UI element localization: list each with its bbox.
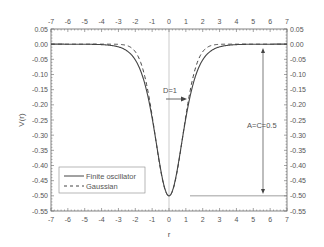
arrow-up-icon xyxy=(261,48,265,53)
y-tick-label-right: -0.50 xyxy=(290,192,306,199)
x-axis-label: r xyxy=(168,230,171,239)
y-tick-label-right: -0.10 xyxy=(290,71,306,78)
x-tick-label-top: 5 xyxy=(251,18,255,25)
y-tick-label-left: -0.40 xyxy=(32,162,48,169)
legend-label: Gaussian xyxy=(86,182,118,191)
y-tick-label-right: 0.05 xyxy=(290,26,304,33)
annotations: D=1A=C=0.5 xyxy=(163,48,287,196)
x-tick-label-top: -1 xyxy=(149,18,155,25)
x-tick-label-bottom: -1 xyxy=(149,216,155,223)
x-tick-label-top: -3 xyxy=(115,18,121,25)
y-tick-label-left: -0.45 xyxy=(32,177,48,184)
x-tick-label-top: -2 xyxy=(132,18,138,25)
x-tick-label-top: 2 xyxy=(201,18,205,25)
y-tick-label-right: -0.55 xyxy=(290,208,306,215)
y-tick-label-left: -0.05 xyxy=(32,56,48,63)
y-tick-label-right: 0.00 xyxy=(290,41,304,48)
x-tick-label-bottom: -6 xyxy=(65,216,71,223)
y-tick-label-left: -0.20 xyxy=(32,101,48,108)
x-tick-label-top: 1 xyxy=(184,18,188,25)
y-tick-label-right: -0.45 xyxy=(290,177,306,184)
x-tick-label-top: 6 xyxy=(268,18,272,25)
x-tick-label-bottom: -7 xyxy=(48,216,54,223)
x-tick-label-top: 3 xyxy=(218,18,222,25)
chart-svg: -7-7-6-6-5-5-4-4-3-3-2-2-1-1001122334455… xyxy=(0,0,324,247)
y-tick-label-right: -0.20 xyxy=(290,101,306,108)
legend-label: Finite oscillator xyxy=(86,172,137,181)
y-tick-label-left: -0.30 xyxy=(32,132,48,139)
y-tick-label-right: -0.35 xyxy=(290,147,306,154)
x-tick-label-bottom: 6 xyxy=(268,216,272,223)
x-tick-label-bottom: 2 xyxy=(201,216,205,223)
y-tick-label-left: -0.35 xyxy=(32,147,48,154)
x-tick-label-bottom: -4 xyxy=(98,216,104,223)
x-tick-label-bottom: 4 xyxy=(234,216,238,223)
x-tick-label-top: -4 xyxy=(98,18,104,25)
x-tick-label-top: -7 xyxy=(48,18,54,25)
x-tick-label-bottom: 0 xyxy=(167,216,171,223)
ac-label: A=C=0.5 xyxy=(247,121,277,130)
x-tick-label-bottom: -5 xyxy=(82,216,88,223)
y-tick-label-left: -0.15 xyxy=(32,86,48,93)
y-tick-label-left: 0.00 xyxy=(34,41,48,48)
y-tick-label-right: -0.30 xyxy=(290,132,306,139)
y-tick-label-left: 0.05 xyxy=(34,26,48,33)
y-tick-label-right: -0.40 xyxy=(290,162,306,169)
y-tick-label-left: -0.25 xyxy=(32,117,48,124)
d-label: D=1 xyxy=(163,86,177,95)
x-tick-label-bottom: 1 xyxy=(184,216,188,223)
arrow-head-icon xyxy=(181,97,187,102)
x-tick-label-top: 7 xyxy=(285,18,289,25)
arrow-down-icon xyxy=(261,189,265,194)
x-tick-label-bottom: -2 xyxy=(132,216,138,223)
x-tick-label-bottom: 7 xyxy=(285,216,289,223)
potential-chart: -7-7-6-6-5-5-4-4-3-3-2-2-1-1001122334455… xyxy=(0,0,324,247)
y-axis-label: V(r) xyxy=(17,113,26,127)
y-tick-label-left: -0.55 xyxy=(32,208,48,215)
x-tick-label-top: -5 xyxy=(82,18,88,25)
y-tick-label-right: -0.15 xyxy=(290,86,306,93)
y-tick-label-right: -0.05 xyxy=(290,56,306,63)
y-tick-label-left: -0.50 xyxy=(32,192,48,199)
y-tick-label-right: -0.25 xyxy=(290,117,306,124)
x-tick-label-top: 0 xyxy=(167,18,171,25)
x-tick-label-top: 4 xyxy=(234,18,238,25)
x-tick-label-bottom: 3 xyxy=(218,216,222,223)
x-tick-label-top: -6 xyxy=(65,18,71,25)
legend: Finite oscillatorGaussian xyxy=(59,167,145,193)
y-tick-label-left: -0.10 xyxy=(32,71,48,78)
x-tick-label-bottom: -3 xyxy=(115,216,121,223)
x-tick-label-bottom: 5 xyxy=(251,216,255,223)
